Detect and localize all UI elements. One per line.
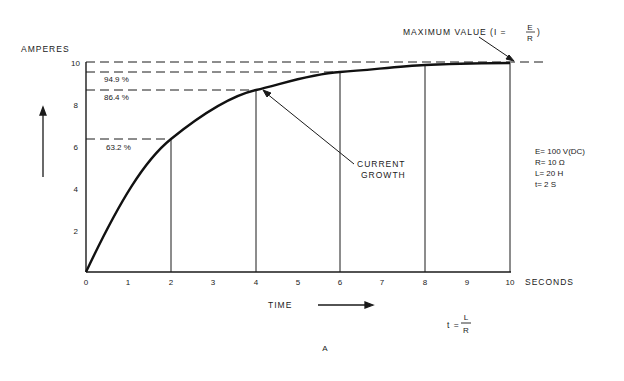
svg-text:R: R: [527, 34, 533, 43]
svg-text:0: 0: [84, 278, 89, 287]
y-axis-label: AMPERES: [21, 44, 70, 54]
pct-label-864: 86.4 %: [104, 93, 129, 102]
svg-text:4: 4: [254, 278, 259, 287]
reference-lines: [86, 62, 545, 139]
svg-text:MAXIMUM VALUE (I =: MAXIMUM VALUE (I =: [403, 27, 507, 37]
svg-text:8: 8: [423, 278, 428, 287]
svg-text:): ): [537, 27, 541, 37]
svg-text:9: 9: [465, 278, 470, 287]
axes: [86, 62, 511, 272]
y-tick-labels: 2 4 6 8 10: [71, 59, 80, 236]
svg-text:7: 7: [380, 278, 385, 287]
growth-label-line1: CURRENT: [357, 159, 406, 169]
right-arrow-icon: [318, 302, 373, 308]
circuit-parameters: E= 100 V(DC) R= 10 Ω L= 20 H t= 2 S: [535, 147, 585, 189]
growth-label-line2: GROWTH: [361, 170, 406, 180]
max-value-annotation: MAXIMUM VALUE (I = E R ): [403, 23, 541, 43]
max-value-pointer-arrow: [479, 37, 514, 61]
svg-text:3: 3: [211, 278, 216, 287]
svg-text:10: 10: [71, 59, 80, 68]
chart-canvas: 2 4 6 8 10 0 1 2 3 4 5 6 7 8 9 10 AMPERE…: [0, 0, 624, 381]
svg-text:R: R: [463, 326, 469, 335]
time-constant-formula: t = L R: [447, 313, 471, 335]
param-t: t= 2 S: [535, 180, 556, 189]
pct-label-632: 63.2 %: [106, 143, 131, 152]
svg-text:4: 4: [74, 185, 79, 194]
svg-text:t =: t =: [447, 320, 460, 330]
param-e: E= 100 V(DC): [535, 147, 585, 156]
svg-text:2: 2: [169, 278, 174, 287]
svg-text:10: 10: [506, 278, 515, 287]
svg-text:6: 6: [74, 143, 79, 152]
up-arrow-icon: [40, 107, 46, 177]
x-tick-labels: 0 1 2 3 4 5 6 7 8 9 10: [84, 278, 515, 287]
svg-text:6: 6: [338, 278, 343, 287]
current-growth-curve: [86, 63, 510, 272]
svg-text:8: 8: [74, 101, 79, 110]
svg-text:5: 5: [296, 278, 301, 287]
svg-text:1: 1: [126, 278, 131, 287]
x-axis-label: TIME: [268, 300, 292, 310]
svg-text:E: E: [527, 23, 532, 32]
panel-label: A: [322, 344, 328, 353]
vertical-gridlines: [171, 63, 510, 272]
x-unit-label: SECONDS: [525, 277, 574, 287]
pct-label-949: 94.9 %: [104, 75, 129, 84]
param-r: R= 10 Ω: [535, 158, 565, 167]
param-l: L= 20 H: [535, 169, 563, 178]
svg-text:2: 2: [74, 227, 79, 236]
svg-text:L: L: [464, 313, 469, 322]
